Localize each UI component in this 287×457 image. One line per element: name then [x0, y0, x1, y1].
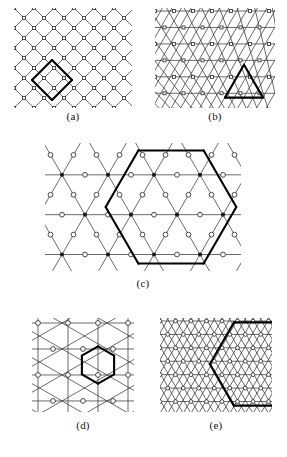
- lattice-node: [189, 319, 193, 323]
- lattice-node: [42, 16, 45, 19]
- lattice-node: [102, 36, 105, 39]
- lattice-edge: [189, 175, 201, 195]
- lattice-node: [160, 346, 162, 350]
- lattice-node: [175, 252, 180, 257]
- lattice-edge: [51, 255, 63, 271]
- lattice-node: [181, 359, 185, 363]
- lattice-edge: [238, 318, 273, 412]
- lattice-edge: [154, 175, 166, 195]
- lattice-edge: [235, 235, 242, 255]
- lattice-node: [258, 59, 261, 62]
- lattice-node: [163, 26, 166, 29]
- lattice-node: [62, 96, 65, 99]
- lattice-edge: [14, 8, 132, 106]
- lattice-edge: [14, 88, 132, 108]
- lattice-node: [160, 319, 162, 323]
- lattice-node: [230, 10, 233, 13]
- lattice-edge: [168, 318, 236, 412]
- lattice-node: [249, 42, 252, 45]
- lattice-edge: [85, 215, 97, 235]
- lattice-node: [22, 16, 25, 19]
- lattice-edge: [32, 323, 134, 399]
- lattice-node: [205, 319, 209, 323]
- lattice-node: [48, 232, 53, 237]
- lattice-node: [189, 346, 193, 350]
- lattice-node: [122, 96, 125, 99]
- lattice-node: [112, 46, 115, 49]
- lattice-node: [205, 400, 209, 404]
- lattice-edge: [51, 155, 63, 175]
- lattice-node: [92, 106, 95, 108]
- lattice-edge: [97, 175, 109, 195]
- lattice-node: [52, 106, 55, 108]
- lattice-node: [22, 76, 25, 79]
- lattice-node: [102, 16, 105, 19]
- lattice-node: [42, 76, 45, 79]
- lattice-node: [211, 75, 214, 78]
- lattice-node-filled: [198, 252, 202, 256]
- lattice-node: [236, 373, 240, 377]
- lattice-node: [232, 153, 237, 158]
- lattice-node: [197, 359, 201, 363]
- panel-c-svg: [45, 143, 241, 271]
- lattice-node: [174, 319, 178, 323]
- lattice-node: [72, 26, 75, 29]
- lattice-edge: [185, 318, 253, 412]
- lattice-edge: [255, 318, 272, 412]
- lattice-node: [211, 10, 214, 13]
- lattice-node-filled: [129, 213, 133, 217]
- lattice-node: [92, 8, 95, 10]
- lattice-edge: [193, 318, 261, 412]
- lattice-node: [94, 153, 99, 158]
- lattice-node: [14, 46, 16, 49]
- lattice-edge: [14, 10, 132, 108]
- lattice-node: [268, 10, 271, 13]
- lattice-figure: (a) (b) (c) (d) (e): [0, 0, 287, 457]
- lattice-node: [173, 75, 176, 78]
- lattice-node: [221, 252, 226, 257]
- lattice-node: [96, 321, 101, 326]
- highlight-edge: [210, 322, 234, 364]
- lattice-node: [181, 333, 185, 337]
- lattice-edge: [143, 175, 155, 195]
- lattice-node: [51, 347, 56, 352]
- lattice-edge: [235, 255, 242, 271]
- lattice-node: [220, 59, 223, 62]
- lattice-edge: [154, 235, 166, 255]
- lattice-node: [212, 386, 216, 390]
- lattice-node: [92, 46, 95, 49]
- lattice-node: [186, 232, 191, 237]
- lattice-node: [209, 232, 214, 237]
- lattice-node: [182, 26, 185, 29]
- lattice-edge: [32, 375, 134, 412]
- caption-c: (c): [45, 277, 241, 289]
- lattice-node: [48, 153, 53, 158]
- lattice-node-filled: [83, 213, 87, 217]
- lattice-node: [243, 386, 247, 390]
- lattice-node: [32, 8, 35, 10]
- lattice-edge: [14, 8, 132, 68]
- lattice-node: [111, 347, 116, 352]
- lattice-edge: [154, 155, 166, 175]
- lattice-edge: [14, 8, 132, 108]
- lattice-node: [102, 96, 105, 99]
- lattice-edge: [14, 8, 132, 108]
- highlight-edge: [204, 150, 237, 207]
- panel-d-triangular-lattice: [32, 318, 134, 412]
- lattice-edge: [166, 195, 178, 215]
- lattice-node: [140, 232, 145, 237]
- lattice-node: [112, 106, 115, 108]
- lattice-edge: [261, 318, 272, 412]
- lattice-node: [243, 333, 247, 337]
- lattice-node: [259, 333, 263, 337]
- lattice-edge: [97, 155, 109, 175]
- lattice-node: [82, 36, 85, 39]
- lattice-node: [221, 172, 226, 177]
- lattice-node: [239, 26, 242, 29]
- lattice-node: [102, 56, 105, 59]
- lattice-node: [155, 75, 157, 78]
- lattice-node: [186, 192, 191, 197]
- lattice-edge: [14, 48, 132, 108]
- lattice-node: [163, 59, 166, 62]
- lattice-node: [140, 192, 145, 197]
